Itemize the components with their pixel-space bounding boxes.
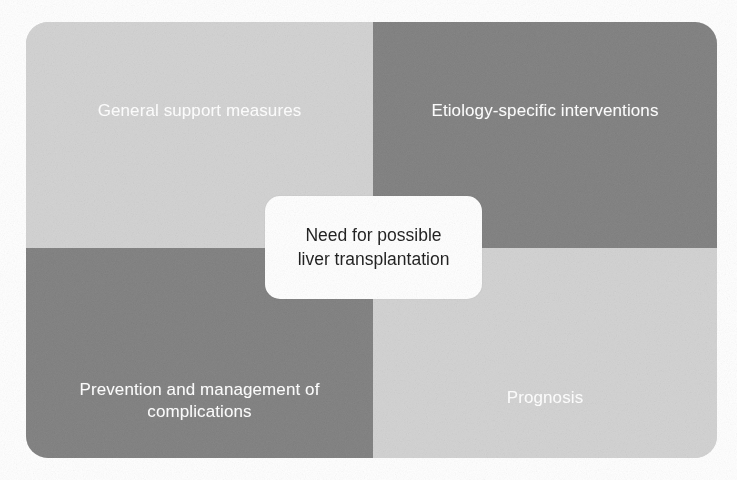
quadrant-top-right-label: Etiology-specific interventions (431, 100, 658, 122)
center-callout-box: Need for possible liver transplantation (265, 196, 482, 299)
diagram-canvas: General support measures Etiology-specif… (0, 0, 737, 480)
quadrant-bottom-left-label: Prevention and management of complicatio… (79, 379, 319, 423)
quadrant-top-left-label: General support measures (98, 100, 302, 122)
center-callout-label: Need for possible liver transplantation (298, 224, 450, 271)
quadrant-bottom-right-label: Prognosis (507, 387, 584, 409)
